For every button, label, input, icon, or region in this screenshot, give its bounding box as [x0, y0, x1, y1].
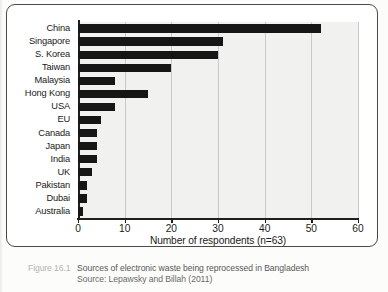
bar: [78, 90, 148, 98]
y-axis-category-label: Malaysia: [0, 74, 74, 87]
y-axis-category-label: UK: [0, 166, 74, 179]
x-axis-tick-label: 0: [63, 223, 93, 234]
bar-row: [78, 100, 358, 113]
bar: [78, 77, 115, 85]
y-axis-category-label: S. Korea: [0, 48, 74, 61]
bar-row: [78, 140, 358, 153]
bar: [78, 116, 101, 124]
y-axis-category-label: Australia: [0, 205, 74, 218]
y-axis-category-label: USA: [0, 100, 74, 113]
bar-row: [78, 166, 358, 179]
x-axis-title: Number of respondents (n=63): [78, 235, 358, 246]
y-axis-category-label: Hong Kong: [0, 87, 74, 100]
y-axis-category-label: Dubai: [0, 192, 74, 205]
bar: [78, 24, 321, 32]
bar-row: [78, 192, 358, 205]
scanned-page: ChinaSingaporeS. KoreaTaiwanMalaysiaHong…: [0, 0, 388, 292]
bar: [78, 103, 115, 111]
bar-row: [78, 61, 358, 74]
figure-number-label: Figure 16.1: [28, 263, 77, 274]
bar-series: [78, 22, 358, 218]
gridline: [358, 22, 359, 218]
bar: [78, 155, 97, 163]
bar: [78, 181, 87, 189]
bar-row: [78, 48, 358, 61]
bar-row: [78, 205, 358, 218]
bar: [78, 207, 83, 215]
bar-row: [78, 179, 358, 192]
x-axis-tick-label: 50: [296, 223, 326, 234]
y-axis-category-label: India: [0, 153, 74, 166]
bar-row: [78, 113, 358, 126]
bar: [78, 129, 97, 137]
x-axis-tick-label: 20: [156, 223, 186, 234]
bar: [78, 194, 87, 202]
bar-chart: ChinaSingaporeS. KoreaTaiwanMalaysiaHong…: [0, 0, 388, 248]
bar-row: [78, 22, 358, 35]
figure-source-text: Source: Lepawsky and Billah (2011): [77, 274, 380, 285]
y-axis-category-label: China: [0, 22, 74, 35]
x-axis-tick-label: 40: [250, 223, 280, 234]
y-axis-category-label: Japan: [0, 140, 74, 153]
y-axis-category-label: Canada: [0, 127, 74, 140]
bar: [78, 37, 223, 45]
bar: [78, 64, 171, 72]
bar-row: [78, 74, 358, 87]
bar-row: [78, 35, 358, 48]
bar-row: [78, 127, 358, 140]
x-axis-tick-label: 10: [110, 223, 140, 234]
caption-line-primary: Figure 16.1 Sources of electronic waste …: [28, 263, 380, 274]
x-axis-tick-label: 30: [203, 223, 233, 234]
figure-title-text: Sources of electronic waste being reproc…: [77, 263, 309, 274]
figure-caption: Figure 16.1 Sources of electronic waste …: [28, 263, 380, 284]
bar: [78, 142, 97, 150]
bar: [78, 168, 92, 176]
x-axis-tick-label: 60: [343, 223, 373, 234]
y-axis-category-label: Singapore: [0, 35, 74, 48]
y-axis-category-label: Pakistan: [0, 179, 74, 192]
y-axis-category-label: EU: [0, 113, 74, 126]
bar: [78, 51, 218, 59]
bar-row: [78, 153, 358, 166]
y-axis-category-label: Taiwan: [0, 61, 74, 74]
bar-row: [78, 87, 358, 100]
y-axis-category-labels: ChinaSingaporeS. KoreaTaiwanMalaysiaHong…: [0, 22, 74, 218]
